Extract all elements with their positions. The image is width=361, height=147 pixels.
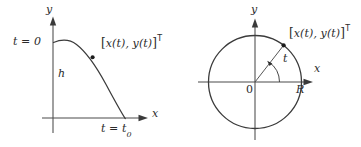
angle-label: t	[283, 53, 288, 64]
point-x-component: x(t)	[106, 37, 126, 50]
projectile-svg	[0, 0, 180, 147]
x-axis-label: x	[314, 63, 320, 74]
point-y-component: y(t)	[321, 27, 341, 40]
circle-point-label: [x(t), y(t)]T	[289, 26, 350, 39]
point-comma: ,	[125, 37, 132, 50]
circular-motion-diagram: y x 0 R t [x(t), y(t)]T	[180, 0, 361, 147]
circle-svg	[180, 0, 361, 147]
x-axis-arrowhead	[304, 79, 314, 86]
trajectory-point-label: [x(t), y(t)]T	[101, 36, 162, 49]
transpose-superscript: T	[157, 34, 162, 43]
end-time-subscript: 0	[127, 130, 132, 139]
projectile-trajectory-diagram: y x t = 0 h t = t0 [x(t), y(t)]T	[0, 0, 180, 147]
angle-arc	[269, 62, 280, 82]
radius-label: R	[296, 84, 304, 95]
y-axis-label: y	[46, 4, 52, 15]
y-axis-label: y	[251, 4, 257, 15]
end-time-prefix: t = t	[101, 122, 127, 135]
circle-point-marker	[282, 43, 286, 47]
point-y-component: y(t)	[133, 37, 153, 50]
origin-label: 0	[246, 84, 253, 95]
x-axis-arrowhead	[139, 115, 149, 122]
y-axis-arrowhead	[50, 17, 56, 26]
y-axis-arrowhead	[252, 19, 258, 28]
height-label: h	[58, 68, 65, 79]
x-axis-label: x	[152, 108, 158, 119]
point-comma: ,	[313, 27, 320, 40]
figure-root: y x t = 0 h t = t0 [x(t), y(t)]T	[0, 0, 361, 147]
start-time-label: t = 0	[13, 36, 41, 47]
trajectory-point-marker	[91, 55, 95, 59]
point-x-component: x(t)	[294, 27, 314, 40]
end-time-label: t = t0	[101, 123, 132, 137]
transpose-superscript: T	[345, 24, 350, 33]
